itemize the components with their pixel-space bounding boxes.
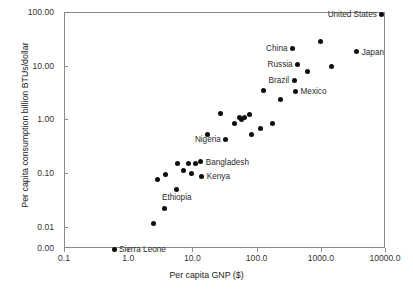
- data-point: [155, 177, 160, 182]
- data-point: [278, 97, 283, 102]
- data-point-label: Nigeria: [195, 135, 221, 144]
- data-point: [270, 121, 275, 126]
- x-tick-label: 1000.0: [308, 253, 334, 263]
- y-tick-label: 0.01: [0, 222, 60, 232]
- data-point: [261, 88, 266, 93]
- x-tick-label: 10.0: [184, 253, 201, 263]
- data-point: [329, 64, 334, 69]
- data-point-label: Japan: [362, 47, 384, 56]
- scatter-chart-figure: Per capita consumption billion BTUs/doll…: [0, 0, 413, 296]
- x-tick-label: 0.1: [58, 253, 70, 263]
- data-point-label: Sierra Leone: [119, 245, 166, 254]
- y-tick-label: 1.00: [0, 114, 60, 124]
- data-point: [162, 206, 167, 211]
- data-point: [379, 12, 384, 17]
- data-point-label: Bangladesh: [206, 157, 249, 166]
- data-point-label: China: [266, 44, 287, 53]
- data-point: [181, 168, 186, 173]
- data-point: [198, 159, 203, 164]
- y-tick-label: 100.00: [0, 7, 60, 17]
- y-tick-label: 0.00: [0, 243, 60, 253]
- data-point: [163, 172, 168, 177]
- data-point: [112, 247, 117, 252]
- y-tick-label: 0.10: [0, 168, 60, 178]
- x-tick-mark: [385, 248, 386, 252]
- data-point: [223, 137, 228, 142]
- data-point: [193, 161, 198, 166]
- data-point: [249, 132, 254, 137]
- x-tick-label: 100.0: [246, 253, 268, 263]
- data-point-label: United States: [328, 10, 377, 19]
- x-axis-title: Per capita GNP ($): [0, 270, 413, 280]
- data-point: [199, 174, 204, 179]
- data-point: [232, 121, 237, 126]
- x-tick-mark: [257, 248, 258, 252]
- data-point: [258, 126, 263, 131]
- y-axis-title: Per capita consumption billion BTUs/doll…: [20, 5, 30, 245]
- data-point-label: Kenya: [207, 172, 230, 181]
- data-point: [247, 112, 252, 117]
- data-point: [295, 62, 300, 67]
- y-tick-label: 10.00: [0, 61, 60, 71]
- data-point: [151, 221, 156, 226]
- data-point: [186, 161, 191, 166]
- plot-area: Sierra LeoneEthiopiaKenyaBangladeshNiger…: [64, 12, 385, 248]
- data-point-label: Ethiopia: [162, 193, 192, 202]
- data-point: [318, 39, 323, 44]
- x-tick-mark: [192, 248, 193, 252]
- x-tick-mark: [321, 248, 322, 252]
- data-point: [175, 161, 180, 166]
- data-point: [354, 49, 359, 54]
- data-point: [242, 115, 247, 120]
- data-point: [292, 78, 297, 83]
- data-point: [290, 46, 295, 51]
- x-tick-label: 1.0: [122, 253, 134, 263]
- data-point: [218, 111, 223, 116]
- x-tick-mark: [64, 248, 65, 252]
- data-point-label: Brazil: [269, 76, 289, 85]
- data-point-label: Russia: [268, 60, 293, 69]
- data-point: [305, 69, 310, 74]
- data-point: [189, 171, 194, 176]
- data-point: [293, 89, 298, 94]
- data-point-label: Mexico: [301, 87, 327, 96]
- data-point: [174, 187, 179, 192]
- x-tick-label: 10000.0: [369, 253, 400, 263]
